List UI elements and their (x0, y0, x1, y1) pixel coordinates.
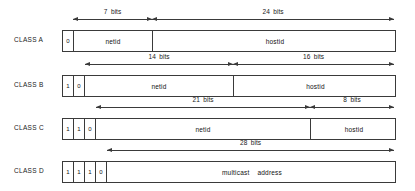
address-field-cell: netid (96, 119, 311, 139)
prefix-bit-cell: 0 (74, 76, 85, 96)
dimension-arrow-left-2-1 (310, 105, 315, 109)
prefix-bit-cell: 0 (63, 31, 74, 51)
address-field-cell: hostid (311, 119, 397, 139)
dimension-arrow-right-3-0 (389, 148, 394, 152)
address-format-row: 0netidhostid (62, 30, 396, 52)
class-label-3: CLASS D (14, 167, 44, 174)
address-field-cell: hostid (153, 31, 397, 51)
dimension-label-1-0: 14 bits (85, 53, 233, 60)
dimension-arrow-right-0-1 (389, 17, 394, 21)
dimension-label-2-1: 8 bits (310, 96, 394, 103)
class-label-2: CLASS C (14, 124, 44, 131)
dimension-line-0-0 (73, 19, 152, 20)
dimension-label-3-0: 28 bits (107, 139, 394, 146)
dimension-line-1-1 (233, 64, 394, 65)
address-field-cell: multicast address (107, 162, 397, 182)
dimension-line-2-1 (310, 107, 394, 108)
prefix-bit-cell: 1 (74, 119, 85, 139)
dimension-arrow-left-3-0 (107, 148, 112, 152)
dimension-line-2-0 (96, 107, 310, 108)
dimension-arrow-left-1-1 (233, 62, 238, 66)
address-format-row: 1110multicast address (62, 161, 396, 183)
prefix-bit-cell: 1 (63, 76, 74, 96)
ip-address-class-diagram: CLASS A7 bits24 bits0netidhostidCLASS B1… (0, 0, 415, 191)
dimension-label-0-0: 7 bits (73, 8, 152, 15)
class-label-0: CLASS A (14, 36, 43, 43)
dimension-label-2-0: 21 bits (96, 96, 310, 103)
prefix-bit-cell: 1 (85, 162, 96, 182)
address-format-row: 10netidhostid (62, 75, 396, 97)
address-format-row: 110netidhostid (62, 118, 396, 140)
dimension-label-1-1: 16 bits (233, 53, 394, 60)
dimension-arrow-left-2-0 (96, 105, 101, 109)
prefix-bit-cell: 0 (85, 119, 96, 139)
class-label-1: CLASS B (14, 81, 44, 88)
dimension-line-0-1 (152, 19, 394, 20)
dimension-arrow-left-1-0 (85, 62, 90, 66)
dimension-line-3-0 (107, 150, 394, 151)
dimension-arrow-right-1-1 (389, 62, 394, 66)
address-field-cell: netid (85, 76, 234, 96)
address-field-cell: netid (74, 31, 153, 51)
dimension-line-1-0 (85, 64, 233, 65)
prefix-bit-cell: 1 (63, 162, 74, 182)
address-field-cell: hostid (234, 76, 397, 96)
dimension-label-0-1: 24 bits (152, 8, 394, 15)
dimension-arrow-left-0-1 (152, 17, 157, 21)
prefix-bit-cell: 1 (74, 162, 85, 182)
prefix-bit-cell: 1 (63, 119, 74, 139)
dimension-arrow-left-0-0 (73, 17, 78, 21)
dimension-arrow-right-2-1 (389, 105, 394, 109)
prefix-bit-cell: 0 (96, 162, 107, 182)
